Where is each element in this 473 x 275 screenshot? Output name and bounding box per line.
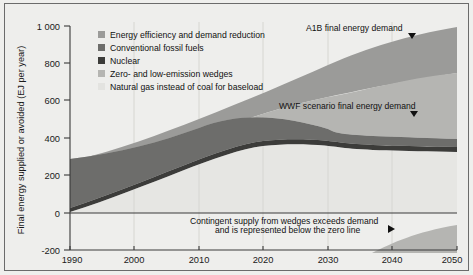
legend: Energy efficiency and demand reduction C…: [98, 30, 265, 92]
legend-swatch-natural-gas-baseload: [98, 83, 105, 90]
stacked-area-chart: 1 000 800 600 400 200 0 -200 Final energ…: [0, 0, 473, 275]
xtick-2040: 2040: [382, 255, 403, 265]
ytick-400: 400: [44, 134, 60, 144]
legend-swatch-nuclear: [98, 57, 105, 64]
marker-triangle-contingent: [388, 225, 395, 233]
legend-label-energy-efficiency: Energy efficiency and demand reduction: [110, 30, 265, 40]
chart-page: 1 000 800 600 400 200 0 -200 Final energ…: [0, 0, 473, 275]
xtick-2000: 2000: [124, 255, 145, 265]
legend-label-nuclear: Nuclear: [110, 56, 140, 66]
annotation-contingent-supply-line2: and is represented below the zero line: [215, 225, 360, 235]
legend-swatch-zero-low-emission-wedges: [98, 70, 105, 77]
ytick-800: 800: [44, 59, 60, 69]
legend-swatch-energy-efficiency: [98, 31, 105, 38]
y-axis-label: Final energy supplied or avoided (EJ per…: [16, 46, 26, 234]
annotation-a1b-final-energy-demand: A1B final energy demand: [306, 23, 403, 33]
ytick-0: 0: [55, 209, 60, 219]
ytick-neg200: -200: [41, 246, 60, 256]
annotation-wwf-scenario-final-energy-demand: WWF scenario final energy demand: [279, 101, 416, 111]
y-axis: 1 000 800 600 400 200 0 -200 Final energ…: [16, 22, 70, 256]
legend-label-natural-gas-baseload: Natural gas instead of coal for baseload: [110, 82, 263, 92]
legend-label-zero-low-emission-wedges: Zero- and low-emission wedges: [110, 69, 233, 79]
legend-swatch-conventional-fossil-fuels: [98, 44, 105, 51]
area-contingent-below-zero: [372, 225, 457, 253]
legend-label-conventional-fossil-fuels: Conventional fossil fuels: [110, 43, 204, 53]
xtick-2020: 2020: [253, 255, 274, 265]
xtick-2010: 2010: [189, 255, 210, 265]
ytick-1000: 1 000: [37, 22, 60, 32]
ytick-200: 200: [44, 171, 60, 181]
xtick-2050: 2050: [442, 255, 463, 265]
ytick-600: 600: [44, 96, 60, 106]
xtick-1990: 1990: [62, 255, 83, 265]
xtick-2030: 2030: [318, 255, 339, 265]
